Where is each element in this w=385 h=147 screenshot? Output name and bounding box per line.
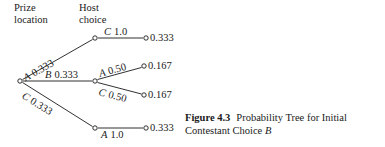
node-leaf-2 — [142, 64, 146, 68]
node-prize-c — [93, 126, 97, 130]
edge-label-prize-b-probability: 0.333 — [54, 69, 78, 80]
figure-caption: Figure 4.3Probability Tree for Initial C… — [185, 111, 383, 137]
edge-label-host-a1: A1.0 — [101, 129, 124, 140]
edge-label-host-c1-variable: C — [104, 26, 111, 37]
edge-label-host-a1-variable: A — [101, 129, 107, 140]
edge-label-host-c50-variable: C — [98, 86, 108, 98]
figure-caption-variable: B — [265, 125, 271, 136]
node-root — [18, 79, 22, 83]
node-leaf-1 — [144, 36, 148, 40]
endpoint-value-4: 0.333 — [150, 122, 174, 133]
edge-label-host-c1: C1.0 — [104, 26, 127, 37]
figure-caption-label: Figure 4.3 — [185, 112, 230, 123]
endpoint-value-3: 0.167 — [148, 89, 172, 100]
edge-label-host-c1-probability: 1.0 — [114, 26, 127, 37]
edge-label-prize-b: B0.333 — [45, 69, 78, 80]
endpoint-value-1: 0.333 — [150, 32, 174, 43]
edge-label-host-a1-probability: 1.0 — [110, 129, 123, 140]
edge-label-prize-b-variable: B — [45, 69, 51, 80]
node-prize-a — [93, 36, 97, 40]
node-leaf-4 — [144, 126, 148, 130]
endpoint-value-2: 0.167 — [148, 60, 172, 71]
probability-tree-figure: Prize location Host choice A0.333 B0.333 — [0, 0, 385, 147]
node-leaf-3 — [142, 93, 146, 97]
node-prize-b — [93, 79, 97, 83]
